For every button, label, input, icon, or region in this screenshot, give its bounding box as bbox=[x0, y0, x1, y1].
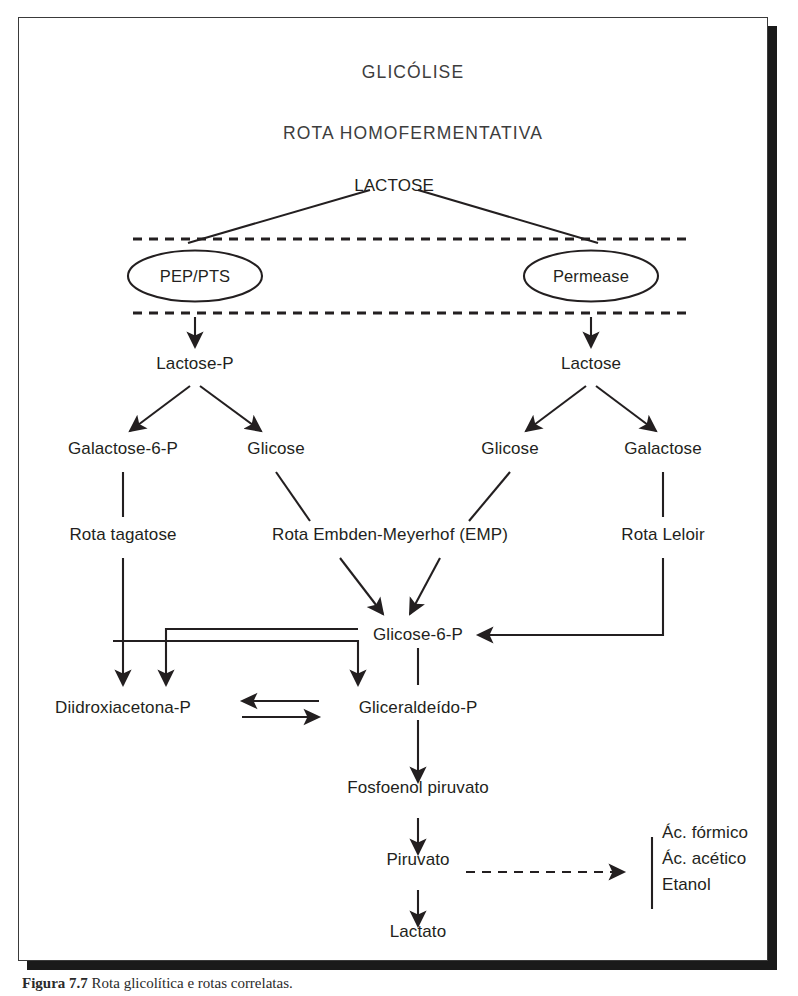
edge-lactose-to-galactose bbox=[596, 386, 656, 431]
pathway-diagram bbox=[18, 17, 768, 961]
figure-caption: Figura 7.7 Rota glicolítica e rotas corr… bbox=[22, 975, 762, 996]
node-fosfoenol-piruvato: Fosfoenol piruvato bbox=[347, 778, 489, 798]
figure-title-main: GLICÓLISE bbox=[362, 62, 464, 82]
node-galactose-6-p: Galactose-6-P bbox=[68, 439, 178, 459]
node-rota-tagatose: Rota tagatose bbox=[69, 525, 176, 545]
edge-lactose-to-pepts bbox=[188, 190, 370, 243]
node-lactose-p: Lactose-P bbox=[156, 354, 233, 374]
node-rota-emp: Rota Embden-Meyerhof (EMP) bbox=[272, 525, 508, 545]
edge-glicose6p-rail-to-g3p bbox=[113, 641, 358, 685]
node-transporter-permease: Permease bbox=[553, 267, 629, 286]
edge-glicose6p-rail-to-dhap bbox=[166, 629, 358, 685]
edge-leloir-to-glicose6p bbox=[478, 558, 663, 635]
node-galactose: Galactose bbox=[624, 439, 701, 459]
node-piruvato: Piruvato bbox=[386, 850, 449, 870]
node-diidroxiacetona-p: Diidroxiacetona-P bbox=[55, 698, 191, 718]
frame-shadow-right bbox=[768, 26, 777, 970]
node-product-acido-acetico: Ác. acético bbox=[662, 848, 746, 870]
node-gliceraldeido-p: Gliceraldeído-P bbox=[359, 698, 478, 718]
edge-lactosep-to-galactose6p bbox=[130, 386, 190, 431]
node-lactose-intracellular: Lactose bbox=[561, 354, 621, 374]
edge-lactose-to-permease bbox=[418, 190, 598, 243]
figure-title-sub: ROTA HOMOFERMENTATIVA bbox=[283, 123, 543, 143]
node-product-acido-formico: Ác. fórmico bbox=[662, 822, 748, 844]
node-rota-leloir: Rota Leloir bbox=[621, 525, 704, 545]
edge-glicose-right-to-emp bbox=[469, 472, 510, 521]
edge-lactose-to-glicose-right bbox=[526, 386, 586, 431]
figure-page: GLICÓLISE ROTA HOMOFERMENTATIVA LACTOSE … bbox=[0, 0, 798, 996]
node-lactose-extracellular: LACTOSE bbox=[354, 176, 434, 196]
edge-glicose-left-to-emp bbox=[276, 472, 310, 521]
node-glicose-left: Glicose bbox=[247, 439, 304, 459]
figure-caption-text: Rota glicolítica e rotas correlatas. bbox=[92, 975, 293, 991]
node-product-etanol: Etanol bbox=[662, 874, 711, 896]
edge-emp-to-glicose6p-left bbox=[340, 558, 383, 614]
node-glicose-right: Glicose bbox=[481, 439, 538, 459]
node-lactato: Lactato bbox=[390, 922, 446, 942]
edge-lactosep-to-glicose-left bbox=[200, 386, 261, 431]
node-glicose-6-p: Glicose-6-P bbox=[373, 625, 463, 645]
node-transporter-pepts: PEP/PTS bbox=[160, 267, 230, 286]
figure-caption-label: Figura 7.7 bbox=[22, 975, 88, 991]
edge-emp-to-glicose6p-right bbox=[410, 558, 440, 614]
frame-shadow-bottom bbox=[27, 961, 777, 970]
